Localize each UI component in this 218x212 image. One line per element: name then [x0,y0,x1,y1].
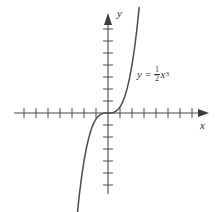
equation-exponent: 3 [166,71,170,78]
fraction-denominator: 2 [154,74,160,83]
equation-annotation: y = 1 2 x 3 [137,66,169,84]
graph-canvas [0,0,218,212]
equation-lhs: y [137,69,142,80]
equation-equals-sign: = [145,69,151,80]
x-axis-label: x [200,120,205,131]
y-axis-arrowhead [104,13,112,25]
equation-fraction-one-half: 1 2 [154,66,160,84]
fraction-numerator: 1 [154,66,160,74]
cubic-function-graph-figure: y x y = 1 2 x 3 [0,0,218,212]
y-axis-label: y [117,8,122,19]
x-axis-arrowhead [198,109,209,117]
